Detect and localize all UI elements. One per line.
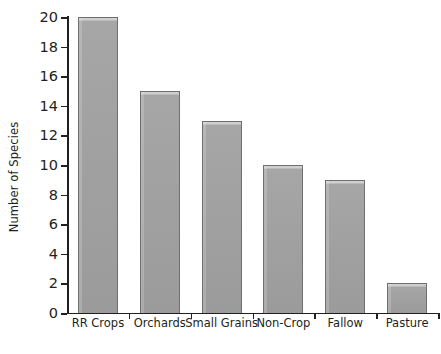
y-axis-tick-mark [61,17,67,19]
y-axis-tick-label: 20 [40,10,58,25]
x-axis-tick-mark [314,313,316,319]
y-axis-tick-label: 0 [49,306,58,321]
y-axis-tick-mark [61,76,67,78]
y-axis-tick-mark [61,135,67,137]
y-axis-tick-mark [61,165,67,167]
plot-area: 02468101214161820 [67,17,438,313]
y-axis-tick-mark [61,106,67,108]
bar [387,283,427,313]
x-axis-tick-mark [376,313,378,319]
y-axis-tick-mark [61,195,67,197]
x-axis-tick-mark [438,313,440,319]
y-axis-title: Number of Species [0,0,28,354]
y-axis-tick-mark [61,313,67,315]
bar [78,17,118,313]
x-axis-category-label: RR Crops [72,318,124,330]
x-axis-category-label: Orchards [134,318,186,330]
y-axis-tick-label: 8 [49,187,58,202]
x-axis-category-label: Pasture [386,318,429,330]
bar-chart-figure: Number of Species 02468101214161820 RR C… [0,0,441,354]
y-axis-tick-mark [61,283,67,285]
bar [263,165,303,313]
y-axis-tick-label: 10 [40,158,58,173]
x-axis-category-label: Small Grains [185,318,258,330]
y-axis-tick-mark [61,224,67,226]
y-axis-tick-mark [61,254,67,256]
y-axis-tick-label: 14 [40,99,58,114]
x-axis-tick-mark [129,313,131,319]
bar [140,91,180,313]
bar [202,121,242,313]
y-axis-tick-mark [61,47,67,49]
y-axis-tick-label: 18 [40,39,58,54]
bar [325,180,365,313]
x-axis-category-label: Fallow [328,318,363,330]
x-axis-category-label: Non-Crop [256,318,310,330]
y-axis-tick-label: 12 [40,128,58,143]
y-axis-tick-label: 2 [49,276,58,291]
y-axis-tick-label: 6 [49,217,58,232]
y-axis-tick-label: 4 [49,247,58,262]
y-axis-tick-label: 16 [40,69,58,84]
